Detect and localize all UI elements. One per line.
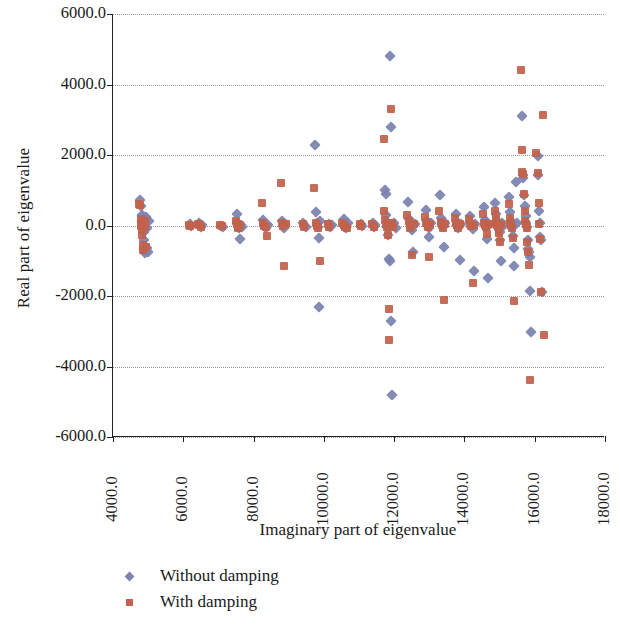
data-point-d: [519, 201, 530, 212]
chart-legend: Without dampingWith damping: [112, 563, 512, 615]
data-point-d: [258, 219, 269, 230]
data-point-s: [403, 211, 411, 219]
data-point-s: [277, 179, 285, 187]
data-point-s: [310, 184, 318, 192]
data-point-d: [481, 221, 492, 232]
data-point-s: [524, 248, 532, 256]
data-point-d: [388, 217, 399, 228]
data-point-d: [341, 223, 352, 234]
data-point-d: [507, 222, 518, 233]
data-point-d: [232, 218, 243, 229]
data-point-d: [516, 111, 527, 122]
data-point-d: [137, 218, 148, 229]
data-point-d: [506, 219, 517, 230]
data-point-s: [340, 221, 348, 229]
data-point-d: [422, 219, 433, 230]
data-point-s: [507, 221, 515, 229]
data-point-s: [451, 214, 459, 222]
data-point-d: [139, 245, 150, 256]
data-point-d: [142, 246, 153, 257]
y-tick-mark: [107, 367, 113, 368]
data-point-s: [508, 224, 516, 232]
data-point-d: [384, 256, 395, 267]
data-point-d: [511, 177, 522, 188]
data-point-d: [522, 235, 533, 246]
data-point-s: [535, 220, 543, 228]
y-tick-label: -6000.0: [14, 428, 106, 444]
data-point-d: [143, 215, 154, 226]
data-point-s: [258, 199, 266, 207]
data-point-s: [137, 222, 145, 230]
data-point-s: [194, 220, 202, 228]
data-point-s: [300, 223, 308, 231]
data-point-s: [313, 222, 321, 230]
data-point-d: [340, 221, 351, 232]
data-point-s: [263, 232, 271, 240]
data-point-s: [491, 207, 499, 215]
data-point-d: [380, 188, 391, 199]
data-point-d: [508, 242, 519, 253]
data-point-s: [522, 220, 530, 228]
data-point-d: [533, 169, 544, 180]
data-point-s: [139, 241, 147, 249]
data-points-layer: [113, 14, 604, 436]
data-point-d: [367, 218, 378, 229]
data-point-s: [186, 222, 194, 230]
x-axis-tick-labels: 4000.06000.08000.010000.012000.014000.01…: [112, 437, 604, 527]
data-point-d: [455, 218, 466, 229]
plot-area: [112, 14, 604, 437]
data-point-s: [316, 257, 324, 265]
data-point-d: [136, 216, 147, 227]
data-point-s: [299, 220, 307, 228]
data-point-d: [342, 218, 353, 229]
data-point-s: [453, 221, 461, 229]
data-point-d: [520, 211, 531, 222]
data-point-s: [325, 223, 333, 231]
data-point-d: [532, 151, 543, 162]
data-point-d: [507, 230, 518, 241]
data-point-d: [390, 222, 401, 233]
data-point-d: [313, 232, 324, 243]
data-point-d: [141, 211, 152, 222]
data-point-s: [338, 219, 346, 227]
data-point-d: [526, 326, 537, 337]
data-point-d: [405, 221, 416, 232]
data-point-s: [526, 376, 534, 384]
scatter-plot-figure: Real part of eigenvalue 6000.04000.02000…: [0, 0, 620, 626]
data-point-d: [403, 197, 414, 208]
data-point-s: [497, 220, 505, 228]
data-point-d: [134, 194, 145, 205]
data-point-s: [510, 297, 518, 305]
data-point-d: [278, 222, 289, 233]
data-point-d: [368, 221, 379, 232]
data-point-s: [465, 215, 473, 223]
data-point-s: [236, 221, 244, 229]
data-point-s: [536, 235, 544, 243]
data-point-d: [310, 139, 321, 150]
data-point-d: [298, 218, 309, 229]
data-point-s: [185, 221, 193, 229]
data-point-d: [382, 221, 393, 232]
data-point-s: [142, 243, 150, 251]
data-point-d: [196, 219, 207, 230]
data-point-s: [535, 199, 543, 207]
data-point-d: [524, 251, 535, 262]
gridline-horizontal: [113, 226, 604, 227]
gridline-horizontal: [113, 14, 604, 15]
data-point-d: [440, 217, 451, 228]
legend-item: With damping: [112, 589, 512, 615]
data-point-d: [409, 219, 420, 230]
data-point-d: [406, 224, 417, 235]
data-point-s: [506, 214, 514, 222]
data-point-s: [479, 210, 487, 218]
data-point-d: [466, 221, 477, 232]
data-point-s: [492, 219, 500, 227]
data-point-d: [277, 221, 288, 232]
data-point-d: [382, 230, 393, 241]
data-point-d: [523, 247, 534, 258]
data-point-s: [138, 231, 146, 239]
data-point-s: [439, 224, 447, 232]
data-point-d: [262, 219, 273, 230]
data-point-d: [452, 219, 463, 230]
data-point-s: [135, 200, 143, 208]
